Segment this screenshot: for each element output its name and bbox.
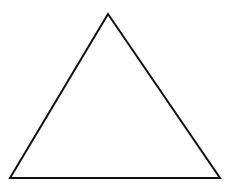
diagram-canvas [0, 0, 236, 186]
triangle-shape [10, 14, 220, 178]
triangle-figure [0, 0, 236, 186]
